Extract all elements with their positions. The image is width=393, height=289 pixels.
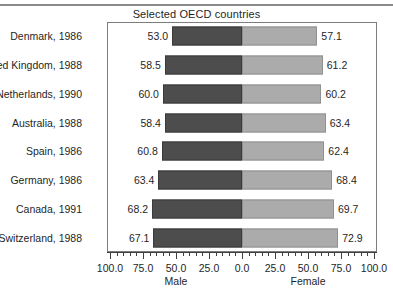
- bar-value-male: 63.4: [134, 174, 154, 186]
- x-tick-minor: [334, 252, 335, 256]
- x-tick-label: 100.0: [361, 262, 387, 274]
- bar-male: [172, 27, 242, 46]
- x-tick-minor: [117, 252, 118, 256]
- bar-row: Germany, 198663.468.4: [0, 166, 393, 195]
- category-label: Australia, 1988: [12, 117, 82, 129]
- bar-male: [165, 113, 242, 132]
- bar-male: [163, 84, 242, 103]
- bar-male: [158, 171, 242, 190]
- x-tick-minor: [249, 252, 250, 256]
- x-tick-label: 25.0: [199, 262, 219, 274]
- bar-row: Spain, 198660.862.4: [0, 137, 393, 166]
- x-tick-minor: [150, 252, 151, 256]
- category-label: United Kingdom, 1988: [0, 59, 82, 71]
- x-tick-minor: [216, 252, 217, 256]
- x-axis-label-male: Male: [165, 275, 188, 287]
- bar-male: [153, 228, 242, 247]
- bar-value-male: 67.1: [129, 232, 149, 244]
- bar-value-female: 72.9: [342, 232, 362, 244]
- x-tick-minor: [288, 252, 289, 256]
- x-tick-minor: [183, 252, 184, 256]
- x-tick-minor: [315, 252, 316, 256]
- bar-row: Switzerland, 198867.172.9: [0, 223, 393, 252]
- x-tick-major: [143, 252, 144, 259]
- category-label: Germany, 1986: [10, 174, 82, 186]
- x-tick-minor: [202, 252, 203, 256]
- bar-female: [242, 142, 324, 161]
- x-tick-label: 25.0: [265, 262, 285, 274]
- bar-value-female: 68.4: [336, 174, 356, 186]
- x-tick-minor: [156, 252, 157, 256]
- bar-value-female: 62.4: [328, 145, 348, 157]
- x-axis: [107, 252, 377, 262]
- bar-male: [152, 199, 242, 218]
- bar-female: [242, 228, 338, 247]
- x-tick-minor: [328, 252, 329, 256]
- bar-male: [165, 56, 242, 75]
- category-label: Canada, 1991: [16, 203, 82, 215]
- x-tick-label: 100.0: [97, 262, 123, 274]
- bar-value-female: 61.2: [327, 59, 347, 71]
- x-tick-major: [374, 252, 375, 259]
- bar-value-male: 58.5: [140, 59, 160, 71]
- bar-row: Australia, 198858.463.4: [0, 108, 393, 137]
- x-axis-label-female: Female: [290, 275, 325, 287]
- x-tick-minor: [367, 252, 368, 256]
- chart-container: Selected OECD countries Denmark, 198653.…: [0, 0, 393, 289]
- x-tick-major: [242, 252, 243, 259]
- x-tick-label: 50.0: [166, 262, 186, 274]
- x-tick-minor: [169, 252, 170, 256]
- x-tick-label: 75.0: [133, 262, 153, 274]
- x-tick-minor: [361, 252, 362, 256]
- bar-female: [242, 171, 332, 190]
- x-tick-minor: [235, 252, 236, 256]
- x-tick-minor: [123, 252, 124, 256]
- bar-value-male: 60.0: [138, 88, 158, 100]
- x-tick-major: [308, 252, 309, 259]
- bar-female: [242, 56, 323, 75]
- bar-rows: Denmark, 198653.057.1United Kingdom, 198…: [0, 22, 393, 252]
- x-tick-minor: [222, 252, 223, 256]
- x-tick-major: [110, 252, 111, 259]
- bar-value-female: 57.1: [321, 30, 341, 42]
- x-tick-label: 50.0: [298, 262, 318, 274]
- x-tick-minor: [348, 252, 349, 256]
- bar-female: [242, 199, 334, 218]
- chart-title: Selected OECD countries: [0, 8, 393, 20]
- x-tick-major: [176, 252, 177, 259]
- bar-value-male: 53.0: [148, 30, 168, 42]
- bar-row: Netherlands, 199060.060.2: [0, 80, 393, 109]
- x-tick-minor: [136, 252, 137, 256]
- x-tick-minor: [321, 252, 322, 256]
- category-label: Denmark, 1986: [10, 30, 82, 42]
- bar-female: [242, 27, 317, 46]
- bar-female: [242, 113, 326, 132]
- bar-value-male: 60.8: [137, 145, 157, 157]
- x-tick-minor: [295, 252, 296, 256]
- category-label: Netherlands, 1990: [0, 88, 82, 100]
- x-tick-major: [275, 252, 276, 259]
- bar-female: [242, 84, 321, 103]
- x-tick-minor: [282, 252, 283, 256]
- x-tick-minor: [255, 252, 256, 256]
- x-tick-minor: [354, 252, 355, 256]
- x-tick-minor: [301, 252, 302, 256]
- x-tick-major: [341, 252, 342, 259]
- x-tick-label: 75.0: [331, 262, 351, 274]
- top-divider-rule: [0, 4, 393, 6]
- bar-value-male: 68.2: [128, 203, 148, 215]
- category-label: Spain, 1986: [26, 145, 82, 157]
- x-tick-minor: [262, 252, 263, 256]
- bar-row: Denmark, 198653.057.1: [0, 22, 393, 51]
- x-tick-minor: [189, 252, 190, 256]
- bar-row: United Kingdom, 198858.561.2: [0, 51, 393, 80]
- x-tick-minor: [229, 252, 230, 256]
- bar-value-female: 60.2: [325, 88, 345, 100]
- bar-value-male: 58.4: [140, 117, 160, 129]
- category-label: Switzerland, 1988: [0, 232, 82, 244]
- bar-row: Canada, 199168.269.7: [0, 195, 393, 224]
- bar-value-female: 69.7: [338, 203, 358, 215]
- bar-male: [162, 142, 242, 161]
- x-tick-label: 0.0: [235, 262, 250, 274]
- x-tick-minor: [163, 252, 164, 256]
